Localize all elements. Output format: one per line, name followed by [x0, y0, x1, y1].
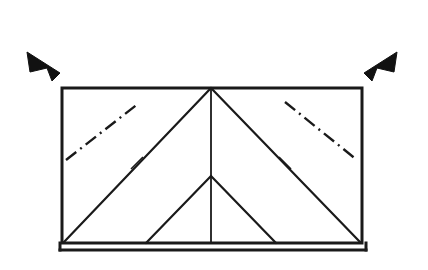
roof-plan-diagram [0, 0, 428, 270]
figure-background [0, 0, 428, 270]
roof-plan-figure [0, 0, 428, 270]
